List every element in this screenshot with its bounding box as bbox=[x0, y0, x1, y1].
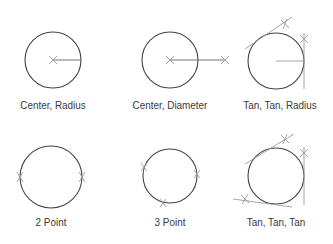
tangent-point-icon bbox=[241, 194, 249, 204]
circle bbox=[20, 146, 82, 208]
label-two-point: 2 Point bbox=[36, 216, 67, 228]
center-radius-figure bbox=[25, 32, 81, 88]
circle bbox=[248, 148, 304, 204]
tangent-line bbox=[245, 134, 294, 164]
tan-tan-tan-figure bbox=[233, 134, 308, 207]
label-center-radius: Center, Radius bbox=[20, 99, 85, 111]
label-tan-tan-radius: Tan, Tan, Radius bbox=[243, 99, 316, 111]
two-point-figure bbox=[17, 146, 85, 208]
label-three-point: 3 Point bbox=[155, 216, 186, 228]
circle bbox=[143, 149, 197, 203]
circle-methods-diagram bbox=[0, 0, 333, 244]
tan-tan-radius-figure bbox=[245, 17, 308, 89]
label-tan-tan-tan: Tan, Tan, Tan bbox=[247, 216, 305, 228]
tangent-line bbox=[245, 17, 292, 49]
tangent-point-icon bbox=[281, 134, 289, 144]
label-center-diameter: Center, Diameter bbox=[133, 99, 208, 111]
three-point-figure bbox=[141, 149, 200, 207]
center-diameter-figure bbox=[142, 32, 229, 88]
